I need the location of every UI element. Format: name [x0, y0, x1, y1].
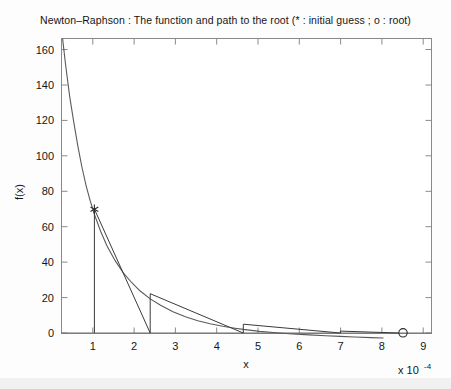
y-tick-label: 160: [36, 44, 54, 56]
x-axis-exponent: x 10 -4: [398, 362, 432, 376]
x-axis-exponent-base: x 10: [398, 364, 419, 376]
x-tick-labels: 1 2 3 4 5 6 7 8 9: [90, 340, 427, 352]
x-tick-label: 7: [338, 340, 344, 352]
y-tick-label: 40: [42, 256, 54, 268]
y-tick-label: 140: [36, 79, 54, 91]
y-tick-label: 60: [42, 221, 54, 233]
x-tick-label: 5: [255, 340, 261, 352]
y-axis-title: f(x): [13, 184, 25, 200]
x-tick-label: 1: [90, 340, 96, 352]
y-tick-label: 20: [42, 292, 54, 304]
y-tick-label: 80: [42, 185, 54, 197]
bottom-margin-band: [0, 378, 451, 389]
x-tick-label: 4: [214, 340, 220, 352]
x-tick-label: 3: [172, 340, 178, 352]
chart-plot: 0 20 40 60 80 100 120 140 160 1 2 3 4 5 …: [0, 0, 451, 389]
y-tick-label: 0: [48, 327, 54, 339]
y-tick-labels: 0 20 40 60 80 100 120 140 160: [36, 44, 54, 340]
x-axis-exponent-power: -4: [424, 362, 432, 371]
x-tick-label: 9: [420, 340, 426, 352]
plot-frame: [62, 39, 432, 334]
x-tick-label: 2: [131, 340, 137, 352]
x-axis-title: x: [243, 358, 249, 370]
figure-canvas: Newton–Raphson : The function and path t…: [0, 0, 451, 389]
y-tick-label: 100: [36, 150, 54, 162]
x-tick-label: 8: [379, 340, 385, 352]
y-tick-label: 120: [36, 114, 54, 126]
x-tick-label: 6: [296, 340, 302, 352]
